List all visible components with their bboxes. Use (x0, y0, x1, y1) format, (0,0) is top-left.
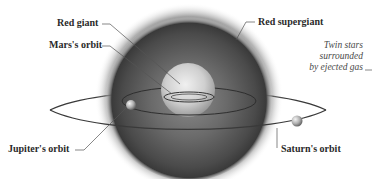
note-twin-stars: Twin stars surrounded by ejected gas (309, 40, 363, 73)
label-red-giant: Red giant (57, 18, 98, 28)
label-saturn-orbit: Saturn's orbit (281, 144, 341, 154)
note-line-1: Twin stars (309, 40, 363, 51)
jupiter-planet (126, 100, 136, 110)
red-giant-core (161, 63, 215, 117)
note-line-2: surrounded (309, 51, 363, 62)
label-mars-orbit: Mars's orbit (49, 40, 102, 50)
stellar-evolution-diagram: Red giant Mars's orbit Red supergiant Ju… (0, 0, 377, 179)
note-line-3: by ejected gas (309, 62, 363, 73)
saturn-planet (292, 116, 303, 127)
label-red-supergiant: Red supergiant (258, 17, 323, 27)
label-jupiter-orbit: Jupiter's orbit (8, 144, 69, 154)
